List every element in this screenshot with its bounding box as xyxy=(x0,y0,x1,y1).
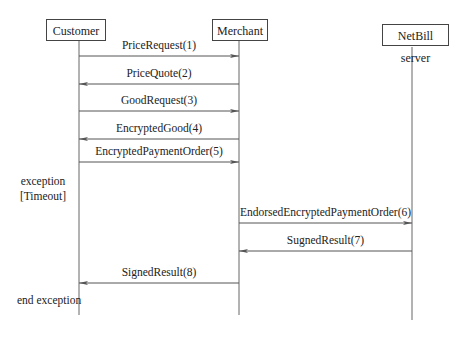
message-label: SugnedResult(7) xyxy=(287,234,364,246)
participant-netbill-server: NetBill server xyxy=(382,24,449,46)
message-label: GoodRequest(3) xyxy=(121,94,197,106)
message-label: PriceQuote(2) xyxy=(126,67,191,79)
message-arrow xyxy=(79,109,239,113)
exception-label: exception [Timeout] xyxy=(18,174,68,204)
message-arrow xyxy=(239,249,412,253)
message-label: PriceRequest(1) xyxy=(122,39,196,51)
exception-condition: [Timeout] xyxy=(18,189,68,204)
exception-keyword: exception xyxy=(18,174,68,189)
message-label: SignedResult(8) xyxy=(122,266,197,278)
participant-customer: Customer xyxy=(46,19,106,41)
message-arrow xyxy=(79,82,239,86)
message-arrow xyxy=(79,137,239,141)
end-exception-label: end exception xyxy=(17,293,81,308)
message-arrow xyxy=(79,54,239,58)
message-arrow xyxy=(79,281,239,285)
message-label: EncryptedPaymentOrder(5) xyxy=(95,145,223,157)
diagram-canvas xyxy=(0,0,467,337)
message-label: EncryptedGood(4) xyxy=(116,122,202,134)
message-arrow xyxy=(79,160,239,164)
message-arrow xyxy=(239,221,412,225)
participant-merchant: Merchant xyxy=(212,19,268,41)
message-label: EndorsedEncryptedPaymentOrder(6) xyxy=(240,206,411,218)
